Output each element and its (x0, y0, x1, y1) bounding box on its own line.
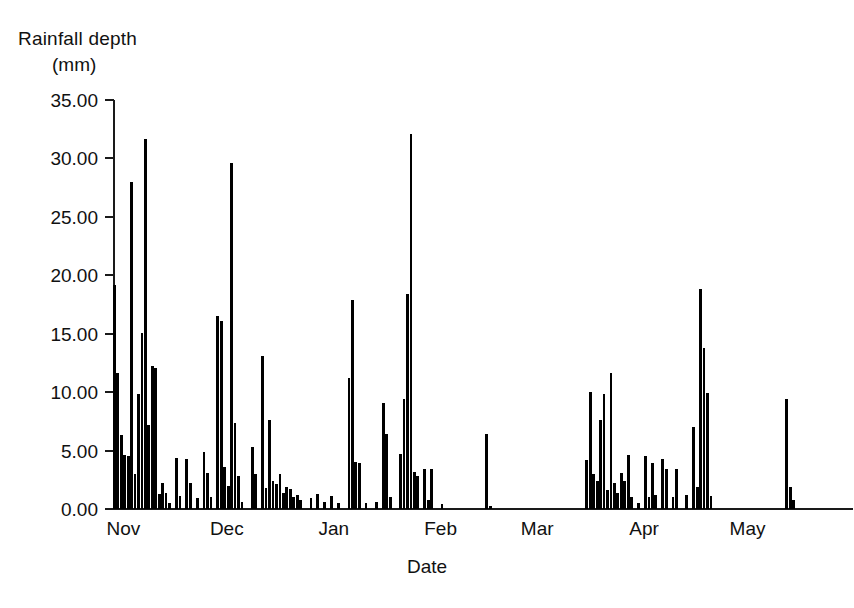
bar (134, 474, 137, 509)
y-axis-tick-label: 25.00 (8, 208, 98, 227)
bar (375, 502, 378, 509)
y-axis-tick-label: 20.00 (8, 266, 98, 285)
bar (234, 423, 237, 509)
bar (282, 493, 285, 509)
bar (189, 483, 192, 509)
bar (275, 484, 278, 509)
bar (389, 497, 392, 509)
x-axis-tick-label-feb: Feb (424, 518, 457, 540)
bar (316, 494, 319, 509)
y-axis-tick-label: 35.00 (8, 91, 98, 110)
bar (613, 483, 616, 509)
bar (399, 454, 402, 509)
bar (692, 427, 695, 509)
bar (703, 348, 706, 509)
bar (230, 163, 233, 509)
bar (241, 502, 244, 509)
bar (630, 497, 633, 509)
bar (279, 474, 282, 509)
bar (120, 435, 123, 509)
bar (310, 498, 313, 509)
y-axis-tick-label: 10.00 (8, 383, 98, 402)
bar (220, 321, 223, 509)
bar (441, 504, 444, 509)
bar (268, 420, 271, 509)
bar (792, 500, 795, 509)
bar (596, 481, 599, 509)
x-axis-tick-label-dec: Dec (210, 518, 244, 540)
bar (337, 503, 340, 509)
bar (592, 474, 595, 509)
bar (672, 497, 675, 509)
bar (165, 493, 168, 509)
bar (175, 458, 178, 509)
bar (648, 497, 651, 509)
bar (113, 285, 116, 509)
bar (185, 459, 188, 509)
bar (585, 460, 588, 509)
bar (123, 455, 126, 509)
bar (485, 434, 488, 509)
bar (637, 503, 640, 509)
bar (789, 487, 792, 509)
bar (154, 368, 157, 509)
bar (665, 469, 668, 509)
bar (261, 356, 264, 509)
bar (158, 494, 161, 509)
bar (427, 500, 430, 509)
bar (206, 473, 209, 509)
bar (599, 420, 602, 509)
bar (416, 476, 419, 509)
bar (785, 399, 788, 509)
x-axis-tick-label-may: May (730, 518, 766, 540)
bar (299, 500, 302, 509)
x-axis-tick-label-nov: Nov (106, 518, 140, 540)
bar (620, 473, 623, 509)
bar (296, 495, 299, 509)
y-axis-tick-label: 0.00 (8, 500, 98, 519)
bar (147, 425, 150, 509)
bar (216, 316, 219, 509)
y-axis-tick-label: 30.00 (8, 149, 98, 168)
bar (348, 378, 351, 509)
bar (161, 483, 164, 509)
bar (168, 503, 171, 509)
bar (237, 476, 240, 509)
bar (265, 488, 268, 509)
bar (610, 373, 613, 509)
bar (382, 403, 385, 509)
bar (675, 469, 678, 509)
bar (644, 456, 647, 509)
bar (365, 503, 368, 509)
bar (651, 463, 654, 509)
bar (127, 456, 130, 509)
y-axis-tick-label: 15.00 (8, 325, 98, 344)
x-axis-tick-label-mar: Mar (521, 518, 554, 540)
bar (227, 486, 230, 509)
bar (330, 496, 333, 509)
bar (358, 463, 361, 509)
bar (385, 434, 388, 509)
y-axis-tick-label: 5.00 (8, 442, 98, 461)
bar (627, 455, 630, 509)
bar (603, 394, 606, 509)
bar (616, 493, 619, 509)
bar (423, 469, 426, 509)
bar (710, 496, 713, 509)
bar (223, 467, 226, 509)
bar (430, 469, 433, 509)
bar (354, 462, 357, 509)
bar (623, 481, 626, 509)
rainfall-chart-figure: Rainfall depth (mm) 0.005.0010.0015.0020… (0, 0, 854, 608)
bar (699, 289, 702, 509)
y-axis-title-line1: Rainfall depth (18, 26, 137, 52)
bar (413, 472, 416, 509)
bar (116, 373, 119, 509)
bar (285, 487, 288, 509)
bar (685, 495, 688, 509)
bar (254, 474, 257, 509)
bar (292, 497, 295, 509)
bar (410, 134, 413, 509)
bar (141, 333, 144, 509)
bar (289, 489, 292, 509)
